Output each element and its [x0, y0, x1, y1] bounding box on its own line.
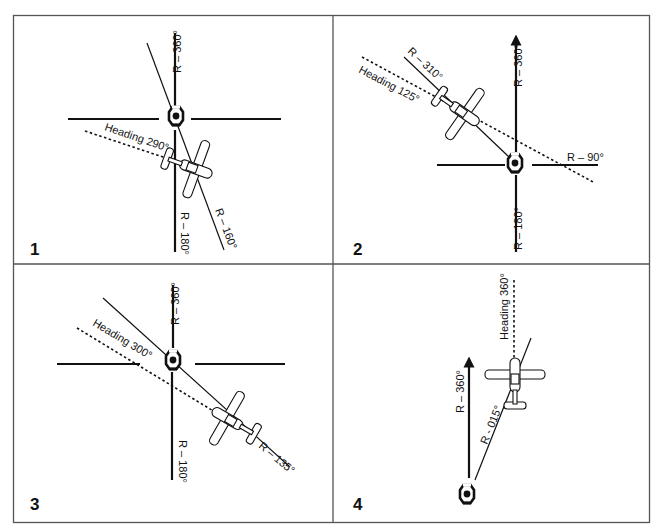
radial-north-label: R – 360°	[512, 44, 524, 87]
aircraft-radial-label: R - 015°	[478, 404, 504, 446]
vor-station-icon	[508, 153, 522, 174]
radial-south-label: R – 180°	[512, 207, 524, 250]
vor-station-icon	[166, 350, 180, 371]
radial-north-label: R – 360°	[169, 282, 181, 325]
panel-3: R – 360° R – 180° R – 135° Heading 300° …	[30, 282, 297, 514]
panel-4: R – 360° R - 015° Heading 360° 4	[353, 273, 545, 514]
heading-line	[77, 328, 215, 412]
heading-label: Heading 300°	[91, 316, 154, 361]
panel-2: R – 360° R – 180° R – 90° R – 310° Headi…	[353, 40, 604, 259]
aircraft-radial-label: R – 160°	[213, 206, 240, 250]
airplane-icon	[485, 358, 545, 409]
radial-south-label: R – 180°	[179, 212, 191, 255]
panel-1: R – 360° R – 180° R – 160° Heading 290° …	[30, 30, 281, 259]
heading-label: Heading 290°	[103, 121, 170, 154]
radial-north-label: R – 360°	[171, 30, 183, 73]
vor-station-icon	[169, 106, 183, 127]
panel-number: 2	[353, 240, 362, 259]
radial-east-label: R – 90°	[567, 151, 604, 163]
vor-station-icon	[460, 484, 474, 505]
airplane-icon	[419, 70, 495, 148]
aircraft-radial-label: R – 135°	[257, 439, 298, 476]
panel-number: 4	[353, 495, 363, 514]
heading-label: Heading 360°	[498, 273, 510, 340]
vor-radial-diagram: R – 360° R – 180° R – 160° Heading 290° …	[0, 0, 661, 531]
radial-north-label: R – 360°	[454, 370, 466, 413]
radial-south-label: R – 180°	[177, 440, 189, 483]
figure-frame	[13, 15, 650, 523]
panel-number: 1	[30, 240, 39, 259]
panel-number: 3	[30, 495, 39, 514]
